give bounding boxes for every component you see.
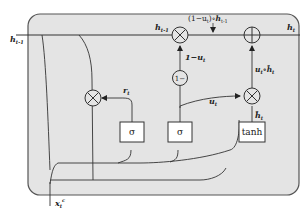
x-input-label: xtc: [54, 197, 65, 209]
candidate-gate-label: tanh: [242, 127, 263, 137]
one-minus-label: 1−: [175, 75, 185, 83]
update-gate-label: σ: [177, 127, 183, 137]
candidate-mult-operator: [244, 88, 260, 104]
reset-gate-label: σ: [129, 127, 135, 137]
reset-mult-operator: [85, 90, 101, 106]
u-h-tilde-label: ut∘ĥt: [255, 65, 275, 75]
one-minus-u-label: 1−ut: [185, 52, 206, 63]
gru-cell-body: [28, 14, 299, 195]
one-minus-operator: 1−: [173, 71, 188, 86]
h-prev-input-label: ht-1: [10, 34, 24, 45]
gru-diagram: σ σ tanh rt ut 1− 1−ut ĥt ut∘ĥt: [0, 0, 307, 213]
sum-operator: [244, 27, 260, 43]
forget-mult-operator: [172, 27, 188, 43]
